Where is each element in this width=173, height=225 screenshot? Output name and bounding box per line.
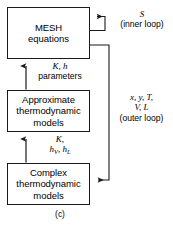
label-outer-loop-text: (outer loop): [110, 113, 173, 123]
label-outer-loop-line-1: x, y, T,: [110, 92, 173, 102]
label-k-hv-hl: K, hV, hL: [24, 134, 96, 156]
label-h-l-mid: , h: [58, 144, 67, 154]
label-inner-loop: S (inner loop): [111, 9, 173, 30]
label-sub-v: V: [54, 148, 58, 155]
label-parameters-text: parameters: [24, 71, 96, 81]
block-complex-line-3: models: [33, 190, 63, 201]
label-outer-loop: x, y, T, V, L (outer loop): [110, 92, 173, 123]
label-inner-loop-text: (inner loop): [111, 19, 173, 29]
block-complex-line-2: thermodynamic: [16, 178, 80, 189]
block-mesh-equations[interactable]: MESH equations: [7, 7, 90, 59]
figure-caption: (c): [0, 209, 120, 219]
block-mesh-line-1: MESH: [35, 22, 62, 33]
label-k-h-parameters: K, h parameters: [24, 61, 96, 82]
block-mesh-line-2: equations: [28, 33, 69, 44]
label-inner-loop-symbol: S: [111, 9, 173, 19]
block-approx-line-1: Approximate: [22, 94, 75, 105]
figure-canvas: MESH equations Approximate thermodynamic…: [0, 0, 173, 225]
block-complex-line-1: Complex: [30, 167, 67, 178]
block-approx-line-2: thermodynamic: [16, 105, 80, 116]
inner-loop-path: [90, 17, 105, 31]
label-k-h-symbols: K, h: [24, 61, 96, 71]
label-outer-loop-line-2: V, L: [110, 102, 173, 112]
label-sub-l: L: [67, 148, 71, 155]
block-approx-line-3: models: [33, 117, 63, 128]
label-enthalpy-symbols: hV, hL: [24, 144, 96, 155]
label-k-symbol: K,: [24, 134, 96, 144]
block-approximate-thermodynamic-models[interactable]: Approximate thermodynamic models: [7, 90, 90, 132]
block-complex-thermodynamic-models[interactable]: Complex thermodynamic models: [7, 163, 90, 205]
